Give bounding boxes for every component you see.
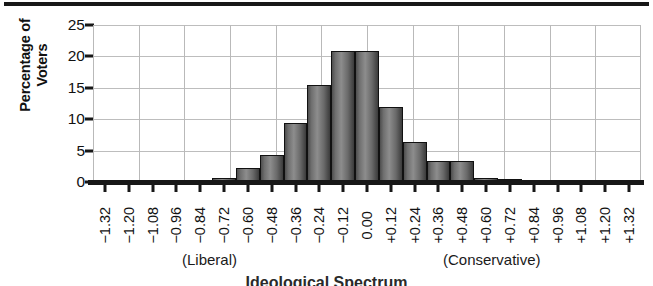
y-axis-tick-label: 20 (55, 49, 85, 65)
x-axis-tick-label: +0.24 (407, 197, 422, 253)
x-axis-tick (294, 185, 297, 192)
x-axis-tick-label: 0.00 (360, 197, 375, 253)
x-axis-tick (532, 185, 535, 192)
x-axis-tick-label: −0.72 (217, 197, 232, 253)
y-axis-title-line-1: Percentage of (17, 18, 34, 111)
histogram-bar (284, 123, 308, 182)
x-axis-tick (389, 185, 392, 192)
x-axis-tick-label: −0.96 (169, 197, 184, 253)
histogram-bar (450, 161, 474, 182)
x-axis-tick-label: −1.32 (98, 197, 113, 253)
x-axis-tick (270, 185, 273, 192)
x-axis-tick (604, 185, 607, 192)
x-axis-tick-label: −1.20 (121, 197, 136, 253)
histogram-bar (307, 85, 331, 182)
x-axis-tick-label: +0.36 (431, 197, 446, 253)
x-axis-tick-label: +0.72 (503, 197, 518, 253)
x-axis-tick-label: −0.48 (264, 197, 279, 253)
x-axis-tick (461, 185, 464, 192)
x-axis-tick (318, 185, 321, 192)
x-axis-tick-label: +1.08 (574, 197, 589, 253)
x-axis-tick-label: −0.60 (241, 197, 256, 253)
top-divider-rule (4, 2, 649, 6)
x-axis-tick (246, 185, 249, 192)
x-axis-tick-label: +0.12 (384, 197, 399, 253)
y-axis-title: Percentage of Voters (17, 0, 51, 135)
x-axis-tick (580, 185, 583, 192)
y-axis-tick-label: 5 (55, 143, 85, 159)
x-axis-tick (556, 185, 559, 192)
x-axis-tick (437, 185, 440, 192)
x-axis-tick (175, 185, 178, 192)
histogram-bar (260, 155, 284, 182)
x-axis-tick-label: −1.08 (145, 197, 160, 253)
x-axis-tick-label: +0.48 (455, 197, 470, 253)
y-axis-tick-label: 25 (55, 17, 85, 33)
x-axis-tick (103, 185, 106, 192)
y-axis-tick-labels: 0510152025 (55, 25, 85, 182)
y-axis-tick-label: 10 (55, 111, 85, 127)
x-axis-tick-label: +0.84 (527, 197, 542, 253)
x-axis-tick-label: −0.12 (336, 197, 351, 253)
x-axis-tick-label: −0.36 (288, 197, 303, 253)
histogram-bar (379, 107, 403, 182)
histogram-bar (331, 51, 355, 182)
y-axis-title-line-2: Voters (34, 44, 51, 87)
x-axis-tick (508, 185, 511, 192)
x-axis-title: Ideological Spectrum (0, 274, 653, 286)
x-axis-tick-label: −0.84 (193, 197, 208, 253)
chart-figure: Percentage of Voters 0510152025 −1.32−1.… (0, 0, 653, 286)
x-axis-tick (151, 185, 154, 192)
x-axis-tick-label: +0.60 (479, 197, 494, 253)
histogram-bar (403, 142, 427, 182)
x-axis-tick (199, 185, 202, 192)
x-axis-tick-labels: −1.32−1.20−1.08−0.96−0.84−0.72−0.60−0.48… (93, 192, 641, 248)
caption-liberal: (Liberal) (182, 252, 237, 267)
x-axis-tick (413, 185, 416, 192)
histogram-bar (355, 51, 379, 182)
x-axis-tick-label: −0.24 (312, 197, 327, 253)
x-axis-tick-label: +0.96 (550, 197, 565, 253)
x-axis-tick (127, 185, 130, 192)
x-axis-tick (223, 185, 226, 192)
caption-conservative: (Conservative) (443, 252, 541, 267)
x-axis-tick (342, 185, 345, 192)
x-axis-tick-label: +1.20 (598, 197, 613, 253)
x-axis-tick (628, 185, 631, 192)
histogram-bar (427, 161, 451, 182)
y-axis-tick-label: 0 (55, 174, 85, 190)
x-axis-tick (485, 185, 488, 192)
histogram-bars (93, 25, 641, 182)
x-axis-tick-label: +1.32 (622, 197, 637, 253)
y-axis-tick-label: 15 (55, 80, 85, 96)
x-axis-tick (366, 185, 369, 192)
x-axis-tick-marks (93, 185, 641, 192)
